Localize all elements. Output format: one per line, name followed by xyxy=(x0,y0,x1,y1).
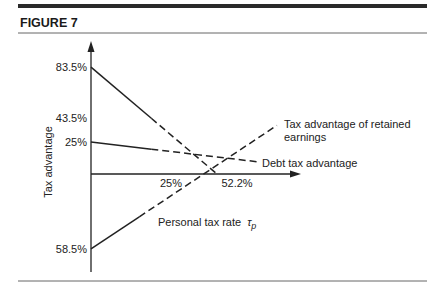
y-tick-label: 58.5% xyxy=(56,243,87,255)
y-tick-label: 43.5% xyxy=(56,112,87,124)
y-tick-label: 83.5% xyxy=(56,61,87,73)
header-thick-rule xyxy=(18,4,427,8)
y-tick-label: 25% xyxy=(65,136,87,148)
series-label-debt: Debt tax advantage xyxy=(262,157,357,169)
x-axis-label-subscript: p xyxy=(250,221,256,231)
x-tick-label: 52.2% xyxy=(221,177,252,189)
series-label-retained-line2: earnings xyxy=(284,131,327,143)
x-axis-label: Personal tax rate τp xyxy=(158,216,256,231)
series-line-tax-advantage-of-retained-earnings-solid xyxy=(91,217,139,249)
x-axis-label-text: Personal tax rate xyxy=(158,216,241,228)
series-line-debt-tax-advantage-dashed xyxy=(151,149,257,162)
y-axis-arrowhead xyxy=(88,41,95,52)
series-line-debt-tax-advantage-solid xyxy=(91,142,151,149)
figure-title: FIGURE 7 xyxy=(20,16,78,30)
series-line-total-tax-advantage-solid xyxy=(91,67,151,118)
x-axis-arrowhead xyxy=(290,171,301,178)
series-line-tax-advantage-of-retained-earnings-dashed xyxy=(139,125,277,216)
series-line-total-tax-advantage-dashed xyxy=(151,118,217,174)
series-label-retained-line1: Tax advantage of retained xyxy=(284,118,411,130)
figure-7-chart: FIGURE 7 Tax advantage 83.5% 43.5% 25% 5… xyxy=(0,0,443,291)
x-tick-label: 25% xyxy=(160,177,182,189)
y-axis-label: Tax advantage xyxy=(42,126,54,198)
